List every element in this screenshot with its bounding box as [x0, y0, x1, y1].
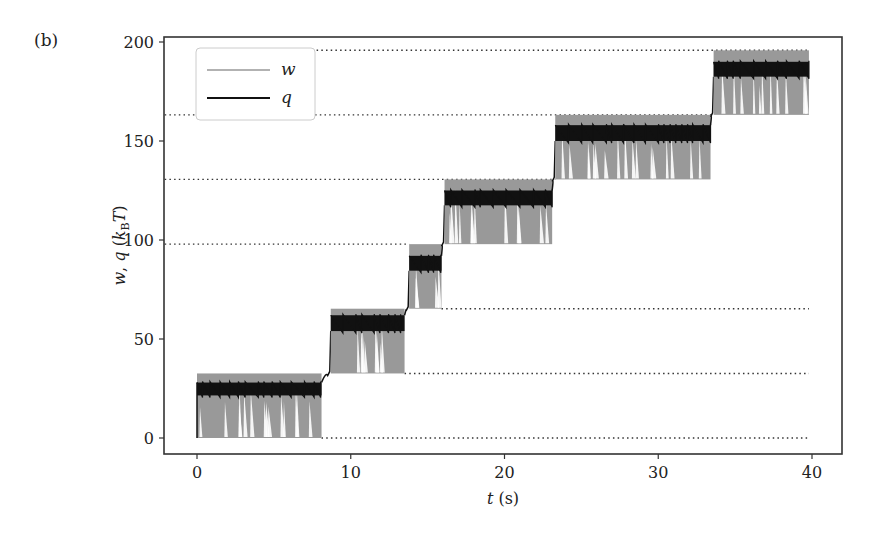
staircase-chart: 010203040050100150200t (s)w, q (kBT) wq [0, 0, 874, 545]
x-tick-label: 20 [494, 463, 514, 482]
q-transition [711, 77, 714, 126]
x-axis-label: t (s) [487, 489, 519, 508]
y-tick-label: 50 [134, 330, 154, 349]
y-tick-label: 150 [123, 132, 154, 151]
q-transition [405, 271, 410, 316]
x-tick-label: 0 [192, 463, 202, 482]
legend-label-q: q [281, 87, 292, 107]
q-transition [441, 205, 444, 255]
q-transition [322, 331, 331, 382]
legend-box [196, 48, 315, 120]
w-band [714, 50, 809, 115]
x-tick-label: 10 [341, 463, 361, 482]
y-tick-label: 0 [144, 429, 154, 448]
x-tick-label: 30 [648, 463, 668, 482]
y-axis-label: w, q (kBT) [110, 205, 132, 285]
y-tick-label: 200 [123, 33, 154, 52]
x-tick-label: 40 [802, 463, 822, 482]
legend-label-w: w [281, 59, 296, 79]
legend: wq [196, 48, 315, 120]
q-transition [552, 141, 555, 191]
